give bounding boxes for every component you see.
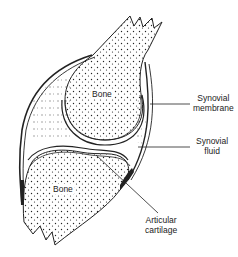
callout-synovial-fluid-line2: fluid — [196, 146, 228, 156]
synovial-fluid-region — [30, 75, 70, 140]
callout-synovial-fluid-line1: Synovial — [196, 136, 228, 146]
upper-bone-label: Bone — [91, 89, 113, 99]
capsule-pinch-left — [20, 180, 24, 205]
callout-articular-cartilage: Articular cartilage — [145, 215, 177, 235]
callout-synovial-membrane: Synovial membrane — [193, 93, 234, 113]
callout-articular-cartilage-line1: Articular — [145, 215, 177, 225]
callout-synovial-membrane-line1: Synovial — [193, 93, 234, 103]
synovial-joint-diagram — [0, 0, 238, 257]
callout-articular-cartilage-line2: cartilage — [145, 225, 177, 235]
lower-bone-label: Bone — [52, 184, 74, 194]
callout-synovial-fluid: Synovial fluid — [196, 136, 228, 156]
callout-synovial-membrane-line2: membrane — [193, 103, 234, 113]
lower-bone — [23, 146, 130, 245]
